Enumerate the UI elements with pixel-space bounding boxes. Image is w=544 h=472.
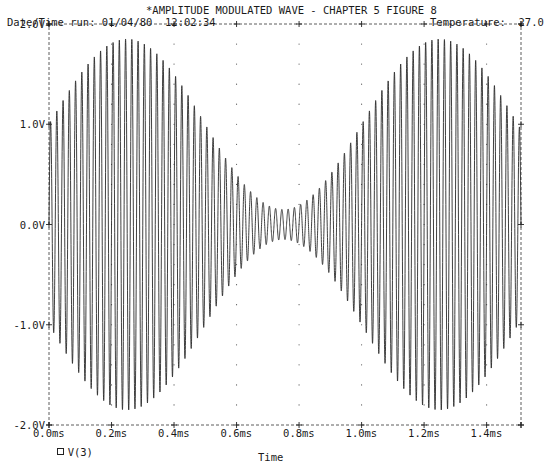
- temperature: Temperature: 27.0: [430, 16, 544, 28]
- x-tick-label: 0.2ms: [96, 427, 128, 439]
- x-tick-label: 0.6ms: [221, 427, 253, 439]
- x-tick-label: 0.8ms: [283, 427, 315, 439]
- x-tick-label: 1.4ms: [471, 427, 503, 439]
- chart-title: *AMPLITUDE MODULATED WAVE - CHAPTER 5 FI…: [146, 4, 437, 16]
- legend-marker-square-icon: [57, 448, 64, 455]
- y-tick-label: 0.0V: [20, 219, 45, 231]
- y-tick-label: 1.0V: [20, 118, 45, 130]
- v3-trace: [49, 39, 521, 410]
- x-tick-label: 0.4ms: [158, 427, 190, 439]
- y-tick-label: 2.0V: [20, 18, 45, 30]
- y-tick-label: -1.0V: [13, 319, 45, 331]
- x-axis-title: Time: [258, 451, 283, 463]
- x-tick-label: 1.2ms: [408, 427, 440, 439]
- legend-label: V(3): [68, 446, 93, 458]
- legend: V(3): [44, 434, 93, 458]
- x-tick-label: 1.0ms: [346, 427, 378, 439]
